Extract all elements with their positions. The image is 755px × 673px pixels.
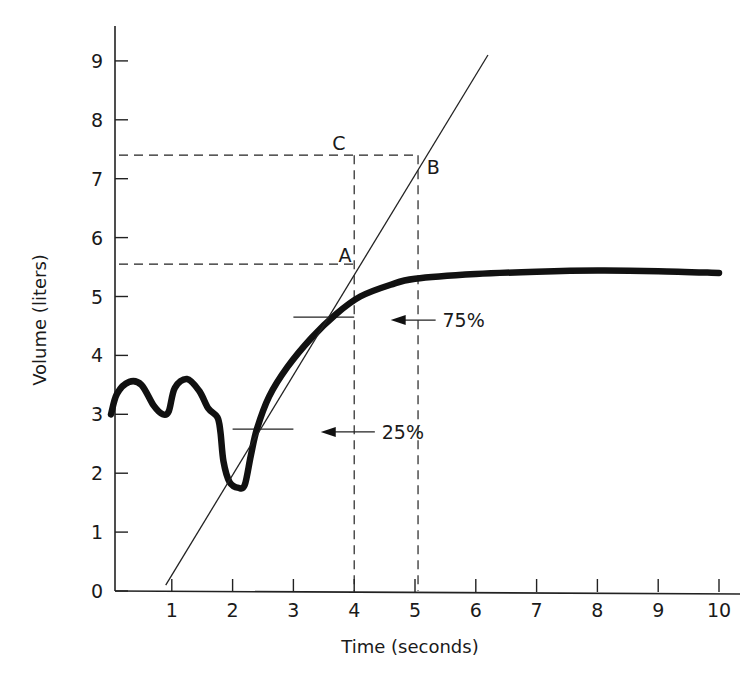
y-tick-label: 2 xyxy=(91,462,103,484)
y-tick-label: 1 xyxy=(91,521,103,543)
annotation-label: B xyxy=(427,156,440,178)
y-tick-label: 5 xyxy=(91,286,103,308)
annotation-label: A xyxy=(339,244,352,266)
y-tick-label: 4 xyxy=(91,344,103,366)
x-axis-title: Time (seconds) xyxy=(340,636,478,657)
annotation-label: 25% xyxy=(382,421,424,443)
y-tick-label: 0 xyxy=(91,580,103,602)
x-tick-label: 5 xyxy=(409,599,421,621)
y-tick-label: 6 xyxy=(91,227,103,249)
x-tick-label: 6 xyxy=(470,599,482,621)
x-tick-label: 9 xyxy=(652,599,664,621)
reference-lines xyxy=(119,155,418,591)
y-tick-label: 3 xyxy=(91,403,103,425)
volume-curve xyxy=(111,271,719,489)
y-tick-label: 9 xyxy=(91,50,103,72)
annotation-label: C xyxy=(332,132,345,154)
x-tick-label: 4 xyxy=(348,599,360,621)
volume-time-chart: 012345678912345678910 ABC75%25% Time (se… xyxy=(0,0,755,673)
x-tick-label: 3 xyxy=(287,599,299,621)
y-tick-label: 7 xyxy=(91,168,103,190)
x-tick-label: 2 xyxy=(227,599,239,621)
x-tick-label: 8 xyxy=(591,599,603,621)
annotation-label: 75% xyxy=(443,309,485,331)
x-tick-label: 7 xyxy=(531,599,543,621)
axes xyxy=(115,26,740,594)
tangent-line xyxy=(166,55,488,585)
ticks: 012345678912345678910 xyxy=(91,50,731,621)
arrow-head-icon xyxy=(391,315,406,325)
x-axis-line xyxy=(115,591,740,594)
x-tick-label: 10 xyxy=(707,599,731,621)
y-axis-title: Volume (liters) xyxy=(29,254,50,386)
x-tick-label: 1 xyxy=(166,599,178,621)
annotations: ABC75%25% xyxy=(321,132,485,443)
arrow-head-icon xyxy=(321,427,336,437)
y-tick-label: 8 xyxy=(91,109,103,131)
